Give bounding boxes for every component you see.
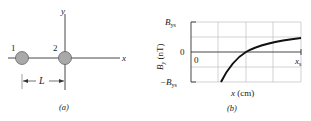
x-axis-label: x <box>121 53 126 63</box>
panel-b-caption: (b) <box>227 103 237 113</box>
y-tick-top: Bys <box>165 17 177 28</box>
distance-label: L <box>38 75 45 86</box>
distance-L-indicator: L <box>22 74 64 89</box>
figure-canvas: x y 1 2 L (a) <box>0 0 311 121</box>
y-tick-bottom: −Bys <box>160 77 178 88</box>
by-curve <box>221 38 301 82</box>
y-axis-title: By (nT) <box>155 44 166 70</box>
y-axis-label: y <box>60 6 65 16</box>
particle-1 <box>16 52 29 65</box>
particle-2-label: 2 <box>53 43 58 53</box>
particle-2 <box>59 52 72 65</box>
panel-a: x y 1 2 L (a) <box>8 6 126 112</box>
particle-1-label: 1 <box>11 43 16 53</box>
x-axis-title: x (cm) <box>230 88 254 98</box>
y-tick-zero: 0 <box>180 47 185 57</box>
panel-b: Bys 0 −Bys By (nT) 0 xs x (cm) (b) <box>155 17 302 113</box>
x-tick-origin: 0 <box>194 55 199 65</box>
panel-a-caption: (a) <box>59 102 69 112</box>
